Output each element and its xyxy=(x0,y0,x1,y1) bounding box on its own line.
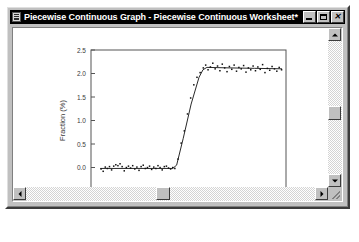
data-point xyxy=(128,165,130,167)
data-point xyxy=(153,166,155,168)
data-point xyxy=(151,169,153,171)
data-point xyxy=(180,142,182,144)
data-point xyxy=(130,167,132,169)
data-point xyxy=(259,69,261,71)
data-point xyxy=(257,66,259,68)
y-tick-label: 1.5 xyxy=(77,94,86,101)
data-point xyxy=(132,165,134,167)
data-point xyxy=(241,68,243,70)
data-point xyxy=(224,67,226,69)
window-title: Piecewise Continuous Graph - Piecewise C… xyxy=(24,10,300,24)
maximize-button[interactable] xyxy=(317,11,330,23)
data-point xyxy=(174,168,176,170)
data-point xyxy=(231,69,233,71)
window-client-area: -0.50.00.51.01.52.02.50204060Time (sec)F… xyxy=(12,27,343,202)
data-point xyxy=(203,67,205,69)
fit-line xyxy=(100,67,282,168)
data-point xyxy=(250,69,252,71)
data-point xyxy=(126,167,128,169)
data-point xyxy=(170,168,172,170)
data-point xyxy=(207,69,209,71)
data-point xyxy=(274,68,276,70)
data-point xyxy=(134,168,136,170)
y-tick-label: 2.0 xyxy=(77,70,86,77)
horizontal-scrollbar-thumb[interactable] xyxy=(156,187,170,200)
data-point xyxy=(166,165,168,167)
data-point xyxy=(222,63,224,65)
data-point xyxy=(115,164,117,166)
data-points xyxy=(100,62,282,172)
chevron-right-icon xyxy=(320,191,323,197)
data-point xyxy=(248,67,250,69)
data-point xyxy=(149,165,151,167)
data-point xyxy=(147,167,149,169)
data-point xyxy=(193,84,195,86)
data-point xyxy=(281,69,283,71)
data-point xyxy=(243,65,245,67)
data-point xyxy=(117,165,119,167)
chevron-down-icon xyxy=(332,179,338,182)
minimize-button[interactable] xyxy=(303,11,316,23)
data-point xyxy=(164,166,166,168)
data-point xyxy=(119,163,121,165)
data-point xyxy=(138,170,140,172)
data-point xyxy=(205,64,207,66)
data-point xyxy=(142,164,144,166)
desktop-background: Piecewise Continuous Graph - Piecewise C… xyxy=(0,0,359,242)
vertical-scrollbar[interactable] xyxy=(328,28,342,187)
window-titlebar[interactable]: Piecewise Continuous Graph - Piecewise C… xyxy=(10,10,345,24)
piecewise-continuous-plot: -0.50.00.51.01.52.02.50204060Time (sec)F… xyxy=(13,28,328,187)
data-point xyxy=(210,66,212,68)
data-point xyxy=(214,68,216,70)
data-point xyxy=(155,168,157,170)
data-point xyxy=(124,170,126,172)
data-point xyxy=(184,130,186,132)
data-point xyxy=(111,169,113,171)
data-point xyxy=(267,68,269,70)
data-point xyxy=(159,167,161,169)
scroll-left-button[interactable] xyxy=(13,187,26,200)
data-point xyxy=(157,165,159,167)
chevron-up-icon xyxy=(332,33,338,36)
data-point xyxy=(262,64,264,65)
data-point xyxy=(278,67,280,69)
y-tick-label: 0.5 xyxy=(77,141,86,148)
data-point xyxy=(229,66,231,68)
y-tick-label: 1.0 xyxy=(77,117,86,124)
data-point xyxy=(172,167,174,169)
data-point xyxy=(187,113,189,115)
scroll-right-button[interactable] xyxy=(315,187,328,200)
data-point xyxy=(168,167,170,169)
horizontal-scrollbar-track[interactable] xyxy=(26,187,315,201)
data-point xyxy=(196,77,198,79)
data-point xyxy=(102,171,104,173)
data-point xyxy=(121,166,123,168)
resize-grip[interactable] xyxy=(328,187,342,201)
window-controls: ✕ xyxy=(303,11,344,23)
data-point xyxy=(217,65,219,67)
y-axis-label: Fraction (%) xyxy=(58,100,67,141)
data-point xyxy=(226,71,228,73)
data-point xyxy=(212,62,214,64)
data-point xyxy=(252,65,254,67)
data-point xyxy=(107,168,109,170)
graph-canvas[interactable]: -0.50.00.51.01.52.02.50204060Time (sec)F… xyxy=(13,28,328,187)
scroll-up-button[interactable] xyxy=(328,28,341,41)
horizontal-scrollbar[interactable] xyxy=(13,187,328,201)
close-icon: ✕ xyxy=(332,12,343,22)
y-tick-label: 0.0 xyxy=(77,164,86,171)
data-point xyxy=(238,67,240,69)
scroll-down-button[interactable] xyxy=(328,174,341,187)
data-point xyxy=(199,72,201,74)
vertical-scrollbar-thumb[interactable] xyxy=(328,106,341,120)
graph-window[interactable]: Piecewise Continuous Graph - Piecewise C… xyxy=(5,5,350,209)
data-point xyxy=(177,158,179,160)
data-point xyxy=(190,97,192,99)
data-point xyxy=(269,70,271,72)
data-point xyxy=(145,168,147,170)
data-point xyxy=(271,66,273,68)
data-point xyxy=(161,169,163,171)
data-point xyxy=(136,166,138,168)
close-button[interactable]: ✕ xyxy=(331,11,344,23)
window-inner-frame: Piecewise Continuous Graph - Piecewise C… xyxy=(7,7,348,207)
